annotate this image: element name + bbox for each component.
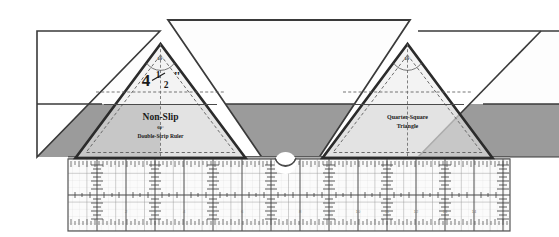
size-whole-number: 4 [142,71,151,90]
left-ruler-brand-line2: Double-Strip Ruler [137,133,184,139]
size-unit-inches: " [173,68,180,83]
right-ruler-name-line1: Quarter-Square [387,114,428,120]
svg-text:13: 13 [443,209,448,214]
size-fraction-denominator: 2 [164,80,169,90]
left-ruler-brand-line1: Non-Slip [143,112,179,122]
ruler-fabric-illustration: 12 34 56 78 910 1112 1314 [0,0,559,237]
svg-text:12: 12 [414,209,419,214]
left-ruler-apex-angle: 60° [158,56,164,61]
left-ruler-angle-text: 60° [157,125,164,130]
svg-text:14: 14 [472,209,477,214]
diagram-canvas: 12 34 56 78 910 1112 1314 [0,0,559,237]
right-ruler-apex-angle: 60° [405,56,411,61]
right-ruler-name-line2: Triangle [397,123,419,129]
center-notch-hole [275,152,297,174]
svg-text:10: 10 [356,209,361,214]
